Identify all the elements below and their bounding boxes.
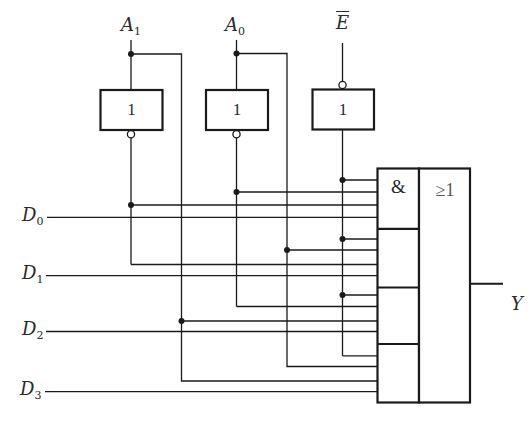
circuit-diagram: [0, 0, 528, 425]
label-d2: D2: [22, 318, 43, 342]
label-y: Y: [511, 293, 523, 314]
label-d0: D0: [22, 204, 43, 228]
inversion-bubble-e: [339, 81, 346, 88]
and-symbol: &: [378, 176, 419, 198]
label-a0: A0: [225, 14, 245, 38]
a0-bar-wiring: [234, 134, 378, 307]
and-or-block: [378, 169, 471, 403]
inverter-a1-symbol: 1: [100, 100, 163, 120]
buffer-e-symbol: 1: [312, 100, 374, 120]
inversion-bubble-a1: [127, 131, 134, 138]
inverter-a0-symbol: 1: [206, 100, 268, 120]
label-d1: D1: [22, 262, 43, 286]
label-d3: D3: [20, 378, 41, 402]
inversion-bubble-a0: [233, 131, 240, 138]
label-a1: A1: [121, 14, 141, 38]
data-lines: [45, 217, 377, 391]
a1-bar-wiring: [128, 134, 377, 265]
or-symbol: ≥1: [422, 180, 468, 201]
label-e-bar: E: [336, 12, 349, 33]
